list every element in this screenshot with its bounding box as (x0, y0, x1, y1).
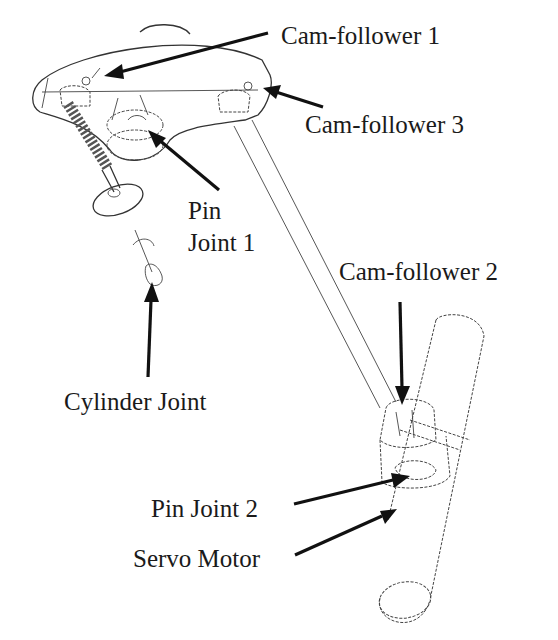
label-cam-follower-2: Cam-follower 2 (339, 258, 498, 286)
mechanism-drawing (0, 0, 558, 640)
label-pin-joint-1-line1: Pin (188, 197, 221, 225)
camshaft (376, 315, 484, 623)
label-servo-motor: Servo Motor (133, 545, 260, 573)
mechanism-diagram: Cam-follower 1 Cam-follower 3 Pin Joint … (0, 0, 558, 640)
label-cam-follower-1: Cam-follower 1 (281, 22, 440, 50)
label-pin-joint-1-line2: Joint 1 (188, 229, 255, 257)
label-pin-joint-2: Pin Joint 2 (151, 495, 258, 523)
label-cam-follower-3: Cam-follower 3 (305, 111, 464, 139)
label-cylinder-joint: Cylinder Joint (64, 388, 206, 416)
valve-spring (60, 86, 147, 222)
cylinder-joint-symbol (133, 230, 162, 286)
rocker-arm (33, 25, 272, 161)
